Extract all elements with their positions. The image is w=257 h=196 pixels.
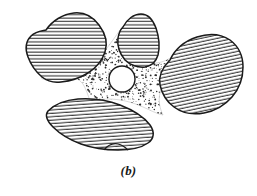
figure-container: (b) (0, 0, 257, 196)
central-pore (109, 66, 135, 92)
figure-caption: (b) (0, 163, 257, 179)
